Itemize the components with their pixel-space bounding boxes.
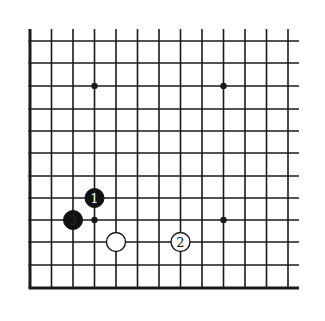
- go-board-diagram: 132: [0, 0, 325, 321]
- move-number-label: 2: [176, 235, 184, 250]
- black-stone: 1: [85, 189, 104, 208]
- star-point-icon: [220, 217, 226, 223]
- move-number-label: 3: [69, 213, 77, 228]
- black-stone: 3: [64, 211, 83, 230]
- white-stone-icon: [107, 233, 126, 252]
- board-grid: [29, 29, 300, 288]
- star-point-icon: [220, 83, 226, 89]
- move-number-label: 1: [90, 191, 98, 206]
- white-stone: [107, 233, 126, 252]
- star-point-icon: [91, 217, 97, 223]
- white-stone: 2: [171, 233, 190, 252]
- star-point-icon: [91, 83, 97, 89]
